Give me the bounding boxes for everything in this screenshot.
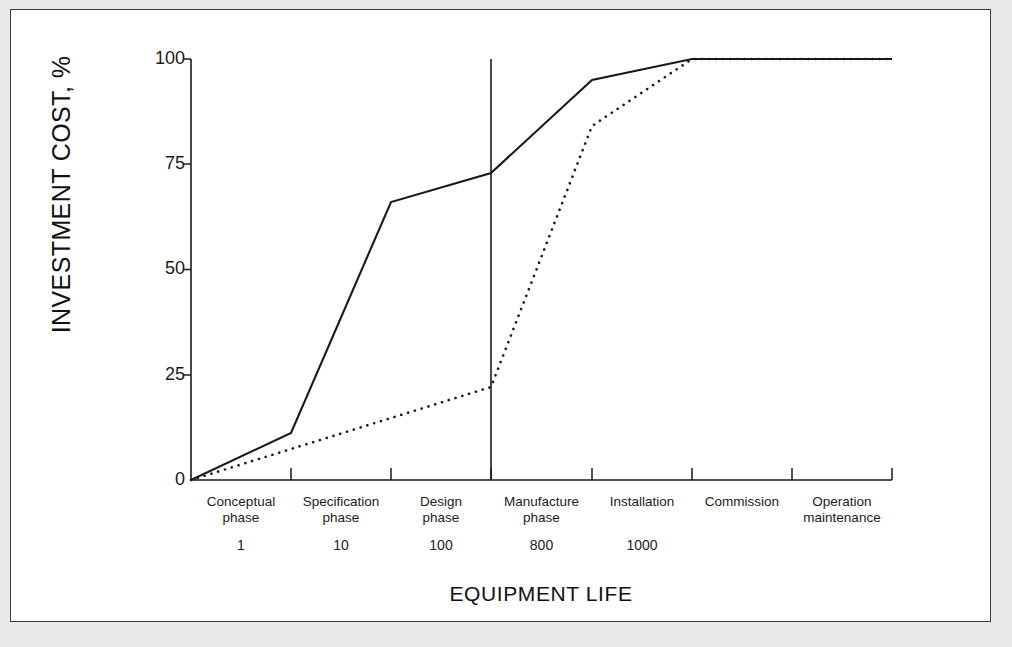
- category-label-line2: phase: [223, 510, 260, 525]
- category-value-800: 800: [491, 537, 592, 553]
- category-label-line2: phase: [423, 510, 460, 525]
- x-axis-title: EQUIPMENT LIFE: [191, 582, 891, 606]
- series-committed-cost-line: [191, 59, 892, 480]
- category-value-1: 1: [191, 537, 291, 553]
- category-label-specification-phase: Specification phase: [291, 494, 391, 526]
- plot-svg: [11, 10, 992, 623]
- category-label-line1: Design: [420, 494, 462, 509]
- category-label-line2: maintenance: [803, 510, 880, 525]
- category-label-operation-maintenance: Operation maintenance: [792, 494, 892, 526]
- category-label-commission: Commission: [692, 494, 792, 510]
- category-label-line2: phase: [523, 510, 560, 525]
- figure-card: INVESTMENT COST, % 100 75 50 25 0: [10, 9, 991, 622]
- category-label-line1: Operation: [812, 494, 871, 509]
- category-label-manufacture-phase: Manufacture phase: [491, 494, 592, 526]
- category-value-10: 10: [291, 537, 391, 553]
- category-label-design-phase: Design phase: [391, 494, 491, 526]
- category-label-installation: Installation: [592, 494, 692, 510]
- category-label-line1: Commission: [705, 494, 779, 509]
- category-label-line1: Manufacture: [504, 494, 579, 509]
- chart-area: INVESTMENT COST, % 100 75 50 25 0: [11, 10, 992, 623]
- category-label-line2: phase: [323, 510, 360, 525]
- category-value-1000: 1000: [592, 537, 692, 553]
- category-label-line1: Installation: [610, 494, 675, 509]
- category-label-conceptual-phase: Conceptual phase: [191, 494, 291, 526]
- category-label-line1: Specification: [303, 494, 380, 509]
- figure-page: INVESTMENT COST, % 100 75 50 25 0: [0, 0, 1012, 647]
- series-expenditure-cost-line: [191, 59, 892, 480]
- category-label-line1: Conceptual: [207, 494, 275, 509]
- category-value-100: 100: [391, 537, 491, 553]
